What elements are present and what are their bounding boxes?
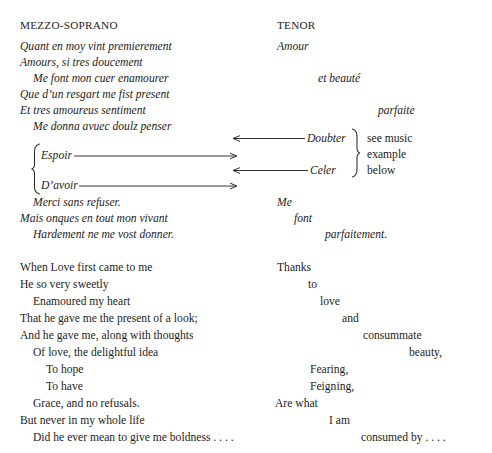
en-mezzo-line-1: When Love first came to me	[20, 261, 152, 275]
en-tenor-line-1: Thanks	[277, 261, 311, 275]
en-tenor-line-2: to	[308, 278, 317, 292]
of-tenor-braced-doubter: Doubter	[307, 132, 346, 146]
column-header-tenor: TENOR	[277, 18, 316, 32]
of-mezzo-line-6: Me donna avuec doulz penser	[33, 120, 171, 134]
of-tenor-line-5: font	[294, 212, 312, 226]
en-mezzo-line-5: And he gave me, along with thoughts	[20, 329, 194, 343]
of-tenor-braced-celer: Celer	[310, 164, 336, 178]
en-mezzo-line-7: To hope	[46, 363, 84, 377]
en-mezzo-line-9: Grace, and no refusals.	[33, 397, 140, 411]
annotation-line-3: below	[367, 164, 395, 178]
arrow-head-celer	[233, 168, 240, 174]
en-tenor-line-11: consumed by . . . .	[361, 431, 446, 445]
of-tenor-line-6: parfaitement.	[325, 228, 387, 242]
of-mezzo-line-7: Merci sans refuser.	[33, 196, 121, 210]
en-mezzo-line-4: That he gave me the present of a look;	[20, 312, 198, 326]
of-tenor-line-2: et beauté	[318, 72, 360, 86]
annotation-line-1: see music	[367, 132, 412, 146]
arrow-head-doubter	[233, 136, 240, 142]
of-tenor-line-1: Amour	[277, 40, 309, 54]
column-header-mezzo-soprano: MEZZO-SOPRANO	[20, 18, 118, 32]
arrow-head-espoir	[230, 153, 237, 159]
of-mezzo-line-8: Mais onques en tout mon vivant	[20, 212, 168, 226]
of-mezzo-braced-davoir: D’avoir	[41, 179, 78, 193]
of-mezzo-braced-espoir: Espoir	[41, 149, 72, 163]
en-mezzo-line-6: Of love, the delightful idea	[33, 346, 158, 360]
of-tenor-line-3: parfaite	[378, 104, 415, 118]
arrow-head-davoir	[230, 183, 237, 189]
right-curly-brace	[353, 129, 361, 177]
en-tenor-line-7: Fearing,	[310, 363, 348, 377]
en-tenor-line-9: Are what	[275, 397, 318, 411]
of-mezzo-line-9: Hardement ne me vost donner.	[33, 228, 174, 242]
en-mezzo-line-2: He so very sweetly	[20, 278, 109, 292]
en-tenor-line-6: beauty,	[409, 346, 442, 360]
en-mezzo-line-10: But never in my whole life	[20, 414, 145, 428]
en-tenor-line-8: Feigning,	[310, 380, 354, 394]
en-tenor-line-10: I am	[329, 414, 350, 428]
of-mezzo-line-2: Amours, si tres doucement	[20, 56, 143, 70]
en-tenor-line-3: love	[320, 295, 340, 309]
en-mezzo-line-3: Enamoured my heart	[33, 295, 130, 309]
annotation-line-2: example	[367, 148, 406, 162]
poem-page: MEZZO-SOPRANO TENOR Quant en moy vint pr…	[0, 0, 492, 453]
of-mezzo-line-1: Quant en moy vint premierement	[20, 40, 172, 54]
en-mezzo-line-8: To have	[46, 380, 83, 394]
en-mezzo-line-11: Did he ever mean to give me boldness . .…	[33, 431, 234, 445]
left-curly-brace	[32, 144, 40, 194]
of-tenor-line-4: Me	[277, 196, 292, 210]
of-mezzo-line-5: Et tres amoureus sentiment	[20, 104, 146, 118]
of-mezzo-line-3: Me font mon cuer enamourer	[33, 72, 168, 86]
en-tenor-line-4: and	[342, 312, 359, 326]
of-mezzo-line-4: Que d’un resgart me fist present	[20, 88, 170, 102]
en-tenor-line-5: consummate	[363, 329, 422, 343]
